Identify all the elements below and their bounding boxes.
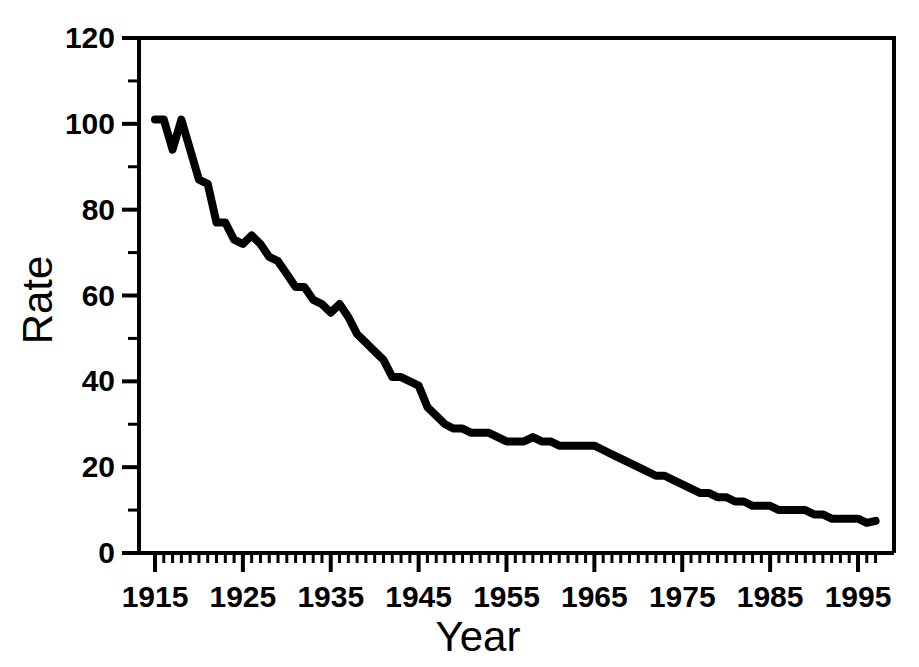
data-series-line [155, 120, 876, 523]
line-chart-svg: 020406080100120 191519251935194519551965… [0, 0, 919, 667]
plot-frame-border [139, 38, 894, 553]
chart-figure: 020406080100120 191519251935194519551965… [0, 0, 919, 667]
x-axis-tick-labels: 191519251935194519551965197519851995 [122, 580, 892, 613]
x-tick-label: 1995 [825, 580, 892, 613]
x-axis-title: Year [436, 613, 521, 660]
x-axis-ticks [155, 553, 876, 572]
plot-frame [139, 38, 894, 553]
x-tick-label: 1925 [210, 580, 277, 613]
x-tick-label: 1975 [649, 580, 716, 613]
x-tick-label: 1955 [473, 580, 540, 613]
y-tick-label: 60 [82, 279, 115, 312]
x-tick-label: 1935 [297, 580, 364, 613]
data-series-layer [155, 120, 876, 523]
y-tick-label: 120 [65, 21, 115, 54]
y-axis-ticks [122, 38, 139, 553]
x-tick-label: 1985 [737, 580, 804, 613]
y-tick-label: 100 [65, 107, 115, 140]
y-tick-label: 20 [82, 450, 115, 483]
x-tick-label: 1965 [561, 580, 628, 613]
y-tick-label: 0 [98, 536, 115, 569]
y-axis-tick-labels: 020406080100120 [65, 21, 115, 569]
x-tick-label: 1915 [122, 580, 189, 613]
y-tick-label: 40 [82, 364, 115, 397]
x-tick-label: 1945 [385, 580, 452, 613]
y-axis-title: Rate [14, 256, 61, 345]
y-tick-label: 80 [82, 193, 115, 226]
